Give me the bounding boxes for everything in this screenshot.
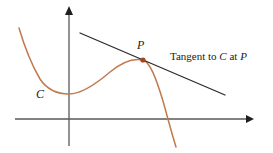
point-label-p: P [137, 39, 144, 51]
x-axis-arrowhead-icon [246, 115, 254, 123]
caption-middle: at [229, 50, 237, 62]
tangent-caption: Tangent to C at P [170, 51, 247, 62]
y-axis [65, 6, 73, 146]
tangent-line-figure: C P Tangent to C at P [0, 0, 273, 153]
tangent-point-marker [140, 57, 145, 62]
figure-canvas [0, 0, 273, 153]
y-axis-arrowhead-icon [65, 6, 73, 15]
caption-prefix: Tangent to [170, 50, 217, 62]
caption-point-var: P [240, 50, 247, 62]
caption-curve-var: C [219, 50, 226, 62]
x-axis [15, 115, 254, 123]
tangent-line [80, 33, 225, 95]
curve-label-c: C [36, 88, 44, 100]
